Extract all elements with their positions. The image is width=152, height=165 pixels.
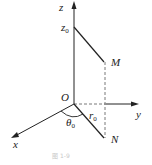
z0-label: z0 (61, 22, 69, 35)
point-M-label: M (111, 57, 120, 68)
y-axis-label: y (136, 109, 141, 120)
theta-subscript: 0 (71, 122, 75, 130)
x-axis-label: x (13, 139, 18, 150)
z-axis-label: z (59, 2, 63, 13)
z0-subscript: 0 (65, 27, 69, 35)
figure-caption: 图 1-9 (52, 151, 70, 160)
y-axis-arrow (131, 102, 139, 107)
r-subscript: 0 (93, 115, 97, 123)
point-N-label: N (111, 134, 118, 145)
theta-arc (61, 111, 83, 117)
origin-label: O (61, 92, 69, 103)
z-axis-arrow (72, 1, 77, 9)
segment-z0-M (74, 27, 104, 62)
theta-label: θ0 (66, 117, 75, 130)
r0-label: r0 (89, 110, 97, 123)
coordinate-diagram (0, 0, 152, 165)
